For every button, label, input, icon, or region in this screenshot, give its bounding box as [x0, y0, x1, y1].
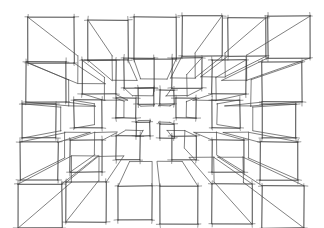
cube-front-top-edge: [118, 186, 152, 187]
perspective-cube-drawing: [0, 0, 324, 228]
paper-background: [0, 0, 324, 228]
cube-front-left-edge: [172, 58, 173, 88]
cube-front-bottom-edge: [70, 172, 102, 173]
cube-front-top-edge: [212, 140, 244, 141]
